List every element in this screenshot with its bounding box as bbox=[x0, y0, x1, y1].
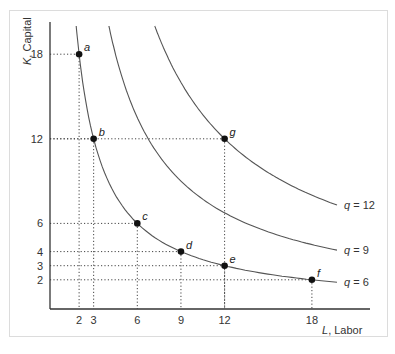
data-points: abcdefg bbox=[76, 41, 321, 283]
isoquant-chart: 2369121823461218 abcdefg q = 6q = 9q = 1… bbox=[0, 0, 395, 354]
isoquant-label: q = 12 bbox=[344, 199, 375, 211]
point-label: f bbox=[317, 267, 321, 279]
y-tick-label: 2 bbox=[37, 274, 43, 286]
isoquant-curves bbox=[76, 26, 337, 282]
point-label: e bbox=[230, 253, 236, 265]
isoquant-label: q = 9 bbox=[344, 244, 369, 256]
x-axis-label: L, Labor bbox=[322, 324, 363, 336]
y-tick-label: 6 bbox=[37, 217, 43, 229]
y-tick-label: 3 bbox=[37, 260, 43, 272]
x-tick-label: 9 bbox=[178, 314, 184, 326]
y-axis-label: K, Capital bbox=[21, 17, 33, 65]
data-point bbox=[221, 136, 228, 143]
x-tick-label: 12 bbox=[218, 314, 230, 326]
point-label: g bbox=[230, 126, 237, 138]
data-point bbox=[76, 51, 83, 58]
tick-labels: 2369121823461218 bbox=[31, 48, 318, 326]
data-point bbox=[221, 262, 228, 269]
y-tick-label: 4 bbox=[37, 246, 43, 258]
data-point bbox=[90, 136, 97, 143]
isoquant-curve bbox=[155, 26, 337, 205]
x-tick-label: 3 bbox=[91, 314, 97, 326]
isoquant-curve bbox=[76, 26, 337, 282]
point-label: c bbox=[142, 210, 148, 222]
point-label: a bbox=[84, 41, 90, 53]
point-label: b bbox=[99, 126, 105, 138]
x-tick-label: 6 bbox=[134, 314, 140, 326]
x-tick-label: 18 bbox=[306, 314, 318, 326]
isoquant-labels: q = 6q = 9q = 12 bbox=[344, 199, 375, 288]
x-tick-label: 2 bbox=[76, 314, 82, 326]
isoquant-label: q = 6 bbox=[344, 276, 369, 288]
data-point bbox=[178, 248, 185, 255]
y-tick-label: 12 bbox=[31, 133, 43, 145]
data-point bbox=[309, 277, 316, 284]
data-point bbox=[134, 220, 141, 227]
point-label: d bbox=[186, 239, 193, 251]
